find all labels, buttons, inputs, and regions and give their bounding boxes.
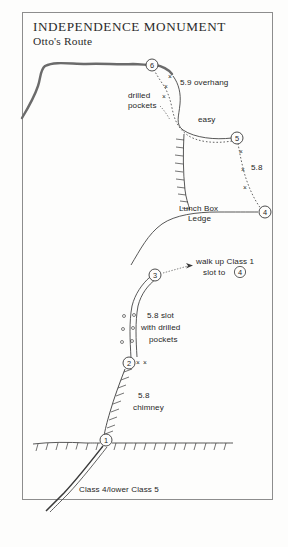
annotation-easy: easy [198, 115, 216, 124]
belay-station-5[interactable]: 5 [231, 132, 243, 144]
page-title: INDEPENDENCE MONUMENT [33, 19, 226, 34]
bolt-x-icon: × [164, 83, 168, 90]
chimney-line [104, 369, 125, 436]
pocket-icon [121, 341, 124, 344]
bolt-x-icon: × [239, 148, 243, 155]
page-subtitle: Otto's Route [33, 35, 92, 47]
drilled-pocket-marks [121, 314, 136, 344]
belay-station-6-label: 6 [150, 61, 154, 70]
annotation-lunch-box-line2: Ledge [188, 214, 211, 223]
belay-station-4[interactable]: 4 [259, 206, 271, 218]
annotation-slot-line1: 5.8 slot [147, 311, 175, 320]
annotation-walk-up-line2: slot to [203, 268, 226, 277]
annotation-chimney-line1: 5.8 [138, 391, 150, 400]
approach-line-b [50, 447, 107, 512]
belay-station-1-label: 1 [104, 436, 108, 445]
belay-station-3[interactable]: 3 [149, 269, 161, 281]
chimney-hatching [105, 369, 132, 434]
inline-station-4-label: 4 [238, 268, 242, 277]
bolt-x-icon: × [241, 166, 245, 173]
annotation-approach: Class 4/lower Class 5 [79, 485, 159, 494]
bolt-x-icon: × [143, 359, 147, 366]
walk-up-leader-line [163, 266, 188, 273]
cliff-face-edge [183, 134, 190, 210]
annotation-drilled-line2: pockets [128, 101, 157, 110]
pocket-icon [132, 327, 135, 330]
pocket-icon [131, 340, 134, 343]
annotation-slot-line3: pockets [149, 335, 178, 344]
route-topo-svg: INDEPENDENCE MONUMENT Otto's Route × × ×… [0, 0, 288, 547]
annotation-chimney-line2: chimney [133, 403, 165, 412]
belay-station-4-label: 4 [263, 208, 267, 217]
belay-station-1[interactable]: 1 [100, 434, 112, 446]
topo-diagram-page: INDEPENDENCE MONUMENT Otto's Route × × ×… [0, 0, 288, 547]
bolt-x-icon: × [136, 359, 140, 366]
pocket-icon [133, 314, 136, 317]
annotation-walk-up-line1: walk up Class 1 [195, 257, 255, 266]
belay-station-3-label: 3 [153, 271, 157, 280]
pointer-arrow-icon [186, 263, 193, 269]
ground-hatching [36, 443, 226, 452]
page-border-frame [23, 13, 273, 500]
belay-station-2[interactable]: 2 [123, 357, 135, 369]
cliff-face-hatching [175, 139, 190, 209]
pocket-icon [123, 315, 126, 318]
bolt-x-icon: × [168, 73, 172, 80]
pocket-icon [122, 328, 125, 331]
annotation-drilled-line1: drilled [128, 91, 150, 100]
bolt-x-icon: × [243, 184, 247, 191]
ground-line-left [33, 442, 100, 444]
annotation-5-8-pitch: 5.8 [251, 163, 263, 172]
annotation-5-9-overhang: 5.9 overhang [180, 78, 228, 87]
annotation-slot-line2: with drilled [140, 323, 180, 332]
annotation-lunch-box-line1: Lunch Box [179, 204, 218, 213]
belay-station-6[interactable]: 6 [146, 59, 158, 71]
approach-line-a [46, 446, 103, 511]
drilled-pockets-leader [160, 106, 170, 120]
belay-station-5-label: 5 [235, 134, 239, 143]
belay-station-2-label: 2 [127, 359, 131, 368]
bolt-x-icon: × [162, 93, 166, 100]
